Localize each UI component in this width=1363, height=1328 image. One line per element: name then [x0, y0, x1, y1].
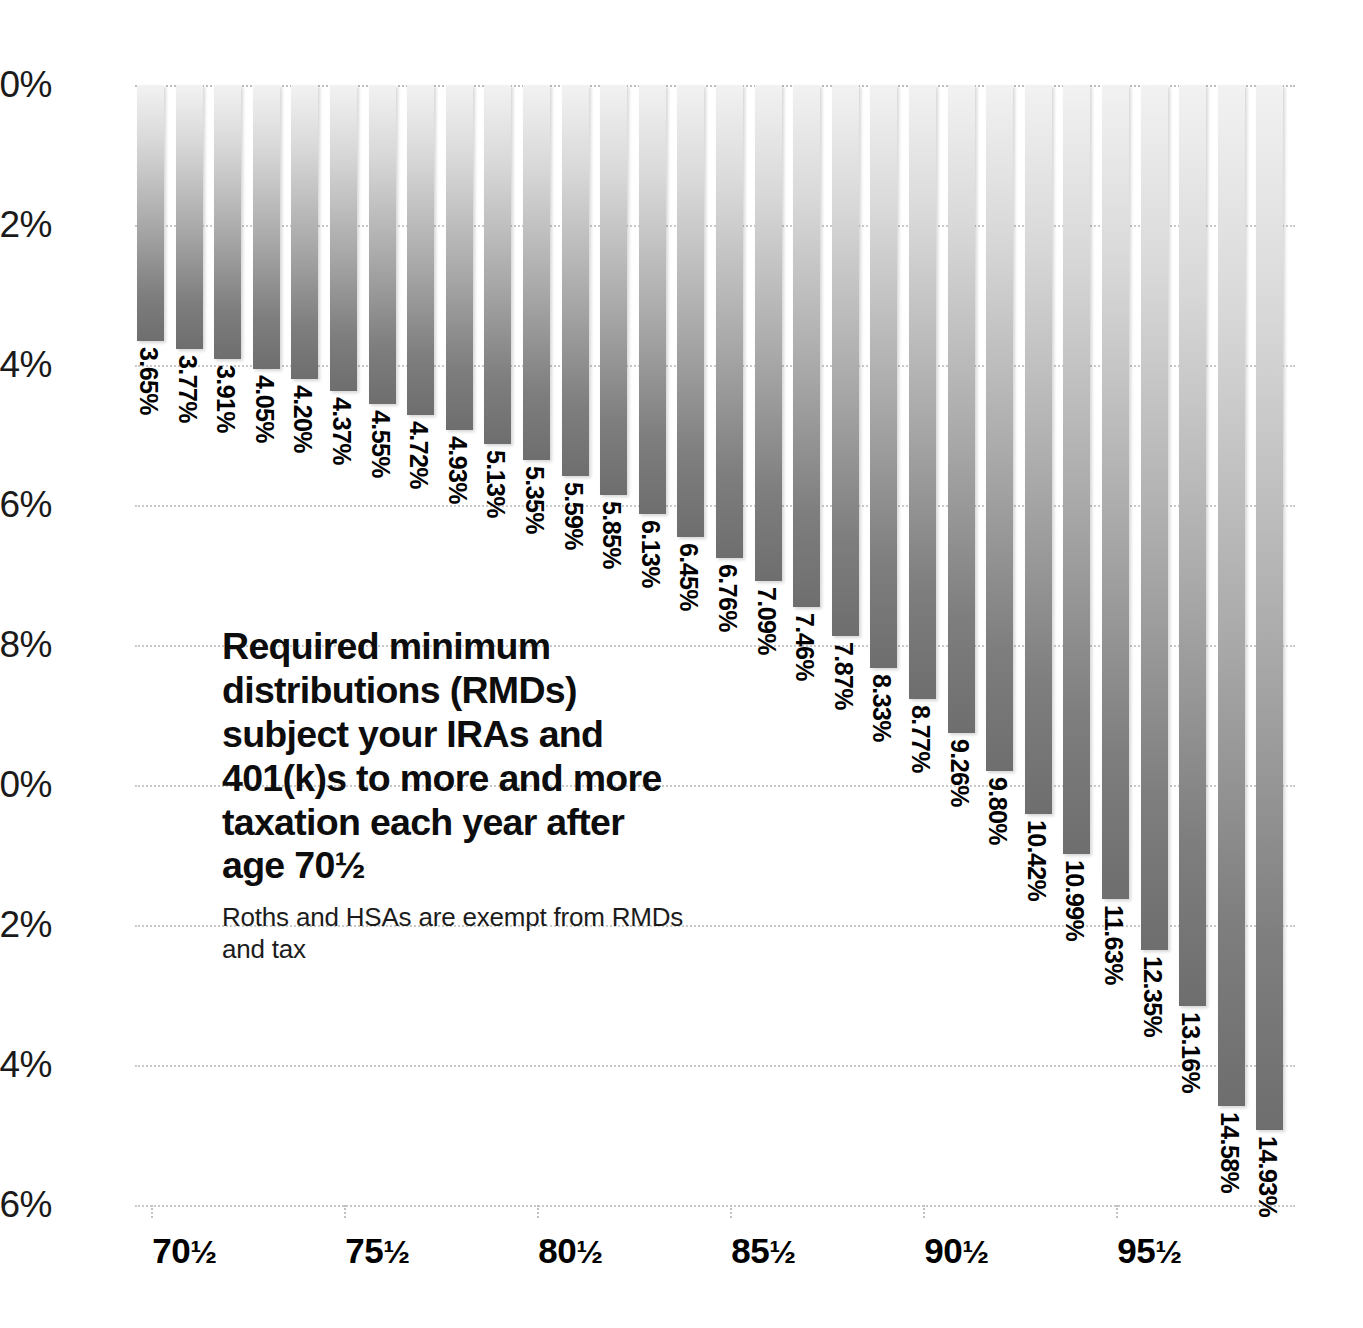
bar [639, 85, 666, 514]
bar [1256, 85, 1283, 1130]
bar [484, 85, 511, 444]
bar [793, 85, 820, 607]
x-axis-tick-label: 75½ [345, 1231, 409, 1271]
bar-value-label: 5.35% [520, 466, 549, 534]
bar [523, 85, 550, 460]
bar [909, 85, 936, 699]
bar [1102, 85, 1129, 899]
x-axis-tick [151, 1205, 153, 1218]
bar [755, 85, 782, 581]
x-axis-tick-label: 90½ [924, 1231, 988, 1271]
y-axis-tick-label: 10% [0, 764, 52, 806]
x-axis-tick-label: 70½ [152, 1231, 216, 1271]
y-axis-tick-label: 6% [0, 484, 52, 526]
bar-value-label: 3.91% [211, 365, 240, 433]
bar [716, 85, 743, 558]
x-axis-tick [1116, 1205, 1118, 1218]
bar-value-label: 4.20% [288, 385, 317, 453]
bar [291, 85, 318, 379]
bar-value-label: 7.87% [829, 642, 858, 710]
bar-value-label: 4.37% [327, 397, 356, 465]
bar-value-label: 5.85% [597, 501, 626, 569]
bar-value-label: 12.35% [1138, 956, 1167, 1037]
bar [600, 85, 627, 495]
bar-value-label: 6.45% [674, 543, 703, 611]
bar-value-label: 7.46% [790, 613, 819, 681]
bar [1141, 85, 1168, 950]
y-axis-tick-label: 16% [0, 1184, 52, 1226]
x-axis: 70½75½80½85½90½95½ [135, 1205, 1295, 1285]
bar-value-label: 5.13% [481, 450, 510, 518]
bar-value-label: 13.16% [1176, 1012, 1205, 1093]
y-axis-tick-label: 12% [0, 904, 52, 946]
bar [1063, 85, 1090, 854]
x-axis-tick-label: 95½ [1117, 1231, 1181, 1271]
y-axis-tick-label: 2% [0, 204, 52, 246]
gridline [135, 1065, 1295, 1067]
bar-value-label: 10.42% [1022, 820, 1051, 901]
bar [330, 85, 357, 391]
y-axis-tick-label: 14% [0, 1044, 52, 1086]
bar [986, 85, 1013, 771]
bar [1025, 85, 1052, 814]
chart-subtitle: Roths and HSAs are exempt from RMDs and … [222, 902, 692, 965]
bar-value-label: 7.09% [752, 587, 781, 655]
bar-value-label: 6.13% [636, 520, 665, 588]
bar-value-label: 14.58% [1215, 1112, 1244, 1193]
bar-value-label: 3.65% [134, 347, 163, 415]
y-axis-tick-label: 8% [0, 624, 52, 666]
x-axis-tick-label: 80½ [538, 1231, 602, 1271]
bar [446, 85, 473, 430]
bar-value-label: 10.99% [1060, 860, 1089, 941]
bar [1218, 85, 1245, 1106]
bar [253, 85, 280, 369]
rmd-bar-chart: 3.65%3.77%3.91%4.05%4.20%4.37%4.55%4.72%… [0, 0, 1363, 1328]
bar-value-label: 8.77% [906, 705, 935, 773]
bar [948, 85, 975, 733]
bar-value-label: 3.77% [173, 355, 202, 423]
bar [1179, 85, 1206, 1006]
x-axis-tick [344, 1205, 346, 1218]
bar [137, 85, 164, 341]
bar [677, 85, 704, 537]
chart-title: Required minimum distributions (RMDs) su… [222, 625, 692, 888]
x-axis-tick [923, 1205, 925, 1218]
y-axis-tick-label: 4% [0, 344, 52, 386]
bar-value-label: 4.93% [443, 436, 472, 504]
bar-value-label: 4.72% [404, 421, 433, 489]
bar-value-label: 11.63% [1099, 905, 1128, 985]
bar [176, 85, 203, 349]
bar [870, 85, 897, 668]
bar [562, 85, 589, 476]
bar-value-label: 6.76% [713, 564, 742, 632]
bar-value-label: 5.59% [559, 482, 588, 550]
bar-value-label: 9.80% [983, 777, 1012, 845]
bar-value-label: 4.05% [250, 375, 279, 443]
bar-value-label: 8.33% [867, 674, 896, 742]
bar [214, 85, 241, 359]
x-axis-tick-label: 85½ [731, 1231, 795, 1271]
x-axis-tick [730, 1205, 732, 1218]
bar-value-label: 9.26% [945, 739, 974, 807]
bar [832, 85, 859, 636]
bar [369, 85, 396, 404]
headline-block: Required minimum distributions (RMDs) su… [222, 625, 692, 966]
y-axis-tick-label: 0% [0, 64, 52, 106]
bar [407, 85, 434, 415]
bar-value-label: 4.55% [366, 410, 395, 478]
x-axis-tick [537, 1205, 539, 1218]
